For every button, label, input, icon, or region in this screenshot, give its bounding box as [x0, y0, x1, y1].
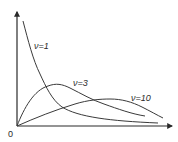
chi-square-density-chart: 0 ν=1 ν=3 ν=10: [0, 0, 178, 142]
label-v3: ν=3: [73, 78, 88, 88]
origin-label: 0: [8, 129, 13, 139]
label-v10: ν=10: [131, 93, 151, 103]
label-v1: ν=1: [34, 41, 49, 51]
curve-v1: [23, 21, 158, 123]
curve-v3: [17, 84, 145, 126]
